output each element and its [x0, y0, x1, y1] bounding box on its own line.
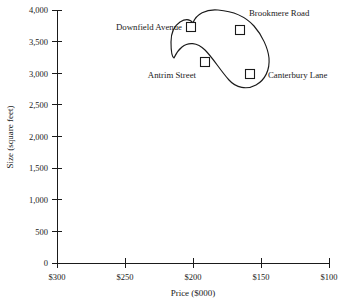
data-point-label-downfield-avenue: Downfield Avenue	[116, 22, 182, 32]
x-tick-label: $200	[185, 272, 202, 282]
y-tick-label: 1,000	[29, 195, 48, 205]
x-tick-label: $250	[117, 272, 134, 282]
data-point-labels: Downfield Avenue Brookmere Road Antrim S…	[116, 8, 327, 80]
data-point-marker-canterbury-lane[interactable]	[246, 70, 255, 79]
y-tick-label: 2,000	[29, 132, 48, 142]
x-tick-label: $100	[321, 272, 338, 282]
y-axis-title: Size (square feet)	[5, 106, 15, 169]
y-tick-label: 2,500	[29, 100, 48, 110]
y-tick-label: 3,000	[29, 69, 48, 79]
y-axis-tick-labels: 4,000 3,500 3,000 2,500 2,000 1,500 1,00…	[29, 5, 48, 268]
scatter-chart: 4,000 3,500 3,000 2,500 2,000 1,500 1,00…	[0, 0, 348, 301]
data-point-marker-antrim-street[interactable]	[201, 58, 210, 67]
x-tick-label: $300	[49, 272, 66, 282]
data-point-marker-brookmere-road[interactable]	[236, 26, 245, 35]
plot-area: 4,000 3,500 3,000 2,500 2,000 1,500 1,00…	[0, 0, 348, 301]
x-axis-title: Price ($000)	[171, 288, 216, 298]
data-point-label-canterbury-lane: Canterbury Lane	[268, 70, 327, 80]
x-tick-label: $150	[253, 272, 270, 282]
data-point-label-brookmere-road: Brookmere Road	[249, 8, 310, 18]
y-tick-label: 4,000	[29, 5, 48, 15]
x-axis-tick-labels: $300 $250 $200 $150 $100	[49, 272, 338, 282]
data-point-marker-downfield-avenue[interactable]	[187, 23, 196, 32]
y-tick-label: 0	[44, 258, 48, 268]
y-tick-label: 1,500	[29, 163, 48, 173]
data-point-label-antrim-street: Antrim Street	[148, 70, 197, 80]
y-tick-label: 3,500	[29, 37, 48, 47]
y-tick-label: 500	[35, 227, 48, 237]
